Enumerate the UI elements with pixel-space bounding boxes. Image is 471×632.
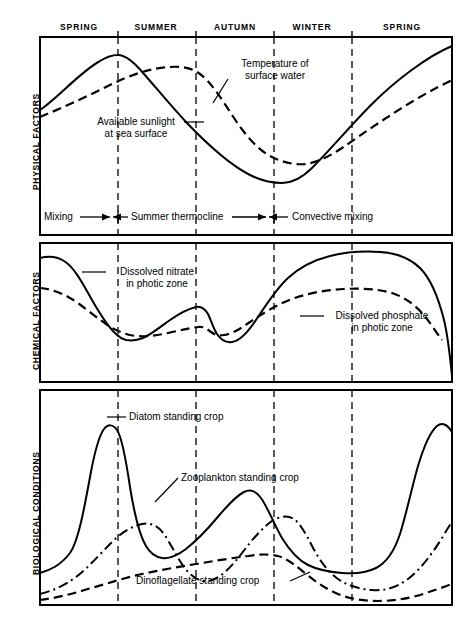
label-nitrate-line-1: Dissolved nitrate xyxy=(109,266,205,278)
label-zooplankton-standing-crop: Zooplankton standing crop xyxy=(181,472,299,484)
label-dissolved-phosphate: Dissolved phosphate in photic zone xyxy=(326,310,438,333)
label-temperature-line-1: Temperature of xyxy=(215,58,335,70)
annotation-summer-thermocline: Summer thermocline xyxy=(131,211,223,222)
annotation-convective-mixing: Convective mixing xyxy=(292,211,373,222)
label-temperature-line-2: surface water xyxy=(215,70,335,82)
thermocline-left-arrowhead-icon xyxy=(113,214,121,221)
annotation-mixing: Mixing xyxy=(44,211,73,222)
label-phosphate-line-2: in photic zone xyxy=(326,322,438,334)
convective-left-arrowhead-icon xyxy=(269,214,277,221)
label-available-sunlight: Available sunlight at sea surface xyxy=(76,116,196,139)
curve-diatom-standing-crop xyxy=(40,424,452,573)
panel-biological-frame xyxy=(40,390,452,605)
label-dinoflagellate-standing-crop: Dinoflagellate standing crop xyxy=(136,575,259,587)
label-nitrate-line-2: in photic zone xyxy=(109,278,205,290)
leader-line-dinoflagellate xyxy=(290,572,310,581)
label-diatom-standing-crop: Diatom standing crop xyxy=(129,411,224,423)
thermocline-right-arrowhead-icon xyxy=(258,214,266,221)
seasonal-cycles-figure: SPRING SUMMER AUTUMN WINTER SPRING PHYSI… xyxy=(0,0,471,632)
label-sunlight-line-2: at sea surface xyxy=(76,128,196,140)
leader-line-zooplankton xyxy=(155,478,178,502)
label-sunlight-line-1: Available sunlight xyxy=(76,116,196,128)
label-dissolved-nitrate: Dissolved nitrate in photic zone xyxy=(109,266,205,289)
label-temperature-of-surface-water: Temperature of surface water xyxy=(215,58,335,81)
mixing-arrowhead-icon xyxy=(102,214,110,221)
label-phosphate-line-1: Dissolved phosphate xyxy=(326,310,438,322)
panel-biological xyxy=(40,390,452,605)
